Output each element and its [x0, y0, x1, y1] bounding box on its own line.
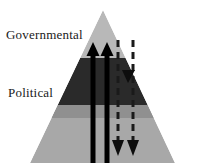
pyramid-diagram-figure: Governmental Political: [0, 0, 200, 168]
solid-up-arrow-left-shaft: [91, 54, 96, 163]
solid-up-arrow-right-shaft: [105, 54, 110, 163]
pyramid-label-governmental: Governmental: [6, 28, 83, 41]
pyramid-label-political: Political: [8, 86, 53, 99]
diagram-canvas: [0, 0, 200, 168]
